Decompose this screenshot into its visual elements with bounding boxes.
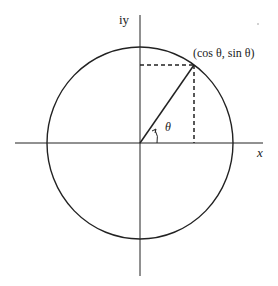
angle-label: θ	[165, 120, 171, 134]
x-axis-label: x	[256, 145, 263, 160]
point-label: (cos θ, sin θ)	[193, 46, 255, 60]
angle-arrow-icon	[152, 129, 156, 133]
unit-circle-diagram: iy x (cos θ, sin θ) θ	[0, 0, 278, 286]
y-axis-label: iy	[119, 12, 130, 27]
stray-dot	[257, 23, 259, 25]
